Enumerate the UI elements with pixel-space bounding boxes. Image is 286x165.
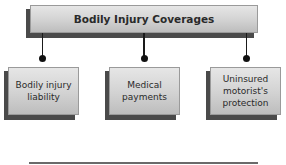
root-node: Bodily Injury Coverages (30, 5, 258, 33)
child-node-bodily-injury-liability: Bodily injury liability (8, 67, 79, 115)
root-node-label: Bodily Injury Coverages (74, 13, 215, 25)
child-node-medical-payments: Medical payments (109, 67, 180, 115)
bottom-divider (29, 162, 258, 164)
connector-dot-1 (39, 55, 46, 62)
connector-dot-2 (141, 55, 148, 62)
child-node-label: Uninsured motorist's protection (216, 73, 276, 109)
connector-dot-3 (243, 55, 250, 62)
child-node-label: Medical payments (120, 79, 170, 103)
child-node-label: Bodily injury liability (12, 79, 76, 103)
child-node-uninsured-motorists-protection: Uninsured motorist's protection (210, 67, 281, 115)
